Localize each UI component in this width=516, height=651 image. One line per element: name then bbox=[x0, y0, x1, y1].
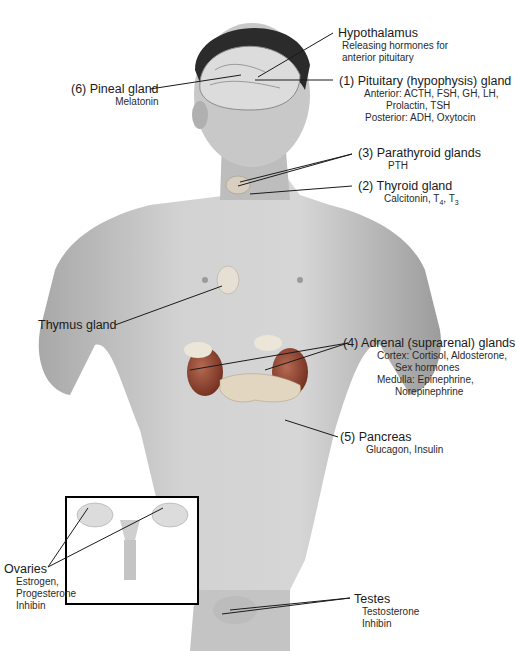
thyroid-hormones: Calcitonin, T4, T3 bbox=[358, 193, 459, 207]
label-thyroid: (2) Thyroid gland Calcitonin, T4, T3 bbox=[358, 179, 459, 208]
label-pineal: (6) Pineal gland Melatonin bbox=[71, 82, 159, 108]
label-hypothalamus: Hypothalamus Releasing hormones for ante… bbox=[338, 26, 448, 64]
adrenal-left bbox=[184, 342, 212, 358]
label-testes: Testes Testosterone Inhibin bbox=[354, 592, 419, 630]
label-pituitary: (1) Pituitary (hypophysis) gland Anterio… bbox=[339, 74, 511, 124]
label-thymus: Thymus gland bbox=[38, 318, 117, 332]
label-ovaries: Ovaries Estrogen, Progesterone Inhibin bbox=[4, 562, 76, 612]
label-pancreas: (5) Pancreas Glucagon, Insulin bbox=[340, 430, 443, 456]
label-adrenal: (4) Adrenal (suprarenal) glands Cortex: … bbox=[343, 336, 515, 398]
thyroid-gland bbox=[226, 176, 250, 194]
endocrine-diagram: Hypothalamus Releasing hormones for ante… bbox=[0, 0, 516, 651]
adrenal-right bbox=[254, 335, 282, 351]
label-parathyroid: (3) Parathyroid glands PTH bbox=[358, 146, 481, 172]
thymus-gland-shape bbox=[217, 266, 239, 294]
